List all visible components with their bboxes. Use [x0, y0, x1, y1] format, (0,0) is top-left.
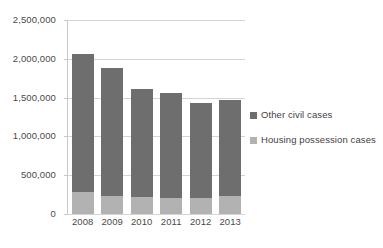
bar-segment-housing-possession-cases[interactable]	[131, 197, 153, 214]
bar-segment-housing-possession-cases[interactable]	[160, 198, 182, 214]
bar-segment-housing-possession-cases[interactable]	[72, 192, 94, 215]
bar-group[interactable]	[101, 68, 123, 214]
legend-item[interactable]: Housing possession cases	[250, 135, 383, 145]
x-axis-tick-label: 2013	[213, 216, 247, 228]
bar-segment-housing-possession-cases[interactable]	[101, 196, 123, 214]
bar-group[interactable]	[160, 93, 182, 214]
bar-segment-other-civil-cases[interactable]	[219, 100, 241, 197]
bar-group[interactable]	[190, 103, 212, 214]
legend-swatch-icon	[250, 137, 257, 144]
bar-segment-other-civil-cases[interactable]	[131, 89, 153, 197]
legend-label: Other civil cases	[261, 110, 332, 120]
bar-segment-housing-possession-cases[interactable]	[190, 198, 212, 214]
bar-group[interactable]	[131, 89, 153, 214]
chart-legend: Other civil casesHousing possession case…	[250, 110, 383, 160]
plot-area	[68, 20, 245, 214]
legend-label: Housing possession cases	[261, 135, 376, 145]
bar-segment-other-civil-cases[interactable]	[190, 103, 212, 198]
legend-item[interactable]: Other civil cases	[250, 110, 383, 120]
bar-segment-other-civil-cases[interactable]	[72, 54, 94, 191]
y-axis-tick-label: 1,000,000	[0, 131, 56, 141]
y-axis-labels: 2,500,0002,000,0001,500,0001,000,000500,…	[0, 0, 62, 248]
stacked-bar-chart: 2,500,0002,000,0001,500,0001,000,000500,…	[0, 0, 383, 248]
bar-series-container	[68, 20, 245, 214]
bar-segment-other-civil-cases[interactable]	[101, 68, 123, 196]
y-axis-tick-label: 0	[0, 209, 56, 219]
y-axis-tick-label: 500,000	[0, 170, 56, 180]
gridline	[68, 214, 245, 215]
y-axis-tick-label: 2,500,000	[0, 15, 56, 25]
y-axis-tick-label: 2,000,000	[0, 54, 56, 64]
y-axis-tick-label: 1,500,000	[0, 93, 56, 103]
bar-segment-housing-possession-cases[interactable]	[219, 196, 241, 214]
y-axis-tick	[64, 214, 68, 215]
legend-swatch-icon	[250, 112, 257, 119]
x-axis-labels: 200820092010201120122013	[68, 216, 245, 234]
bar-group[interactable]	[219, 100, 241, 214]
bar-group[interactable]	[72, 54, 94, 214]
bar-segment-other-civil-cases[interactable]	[160, 93, 182, 197]
